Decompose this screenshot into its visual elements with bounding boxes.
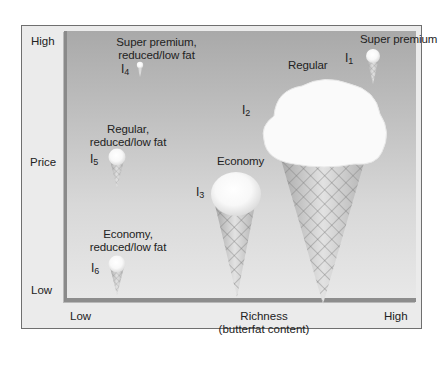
- ice-cream-cone-i6-icon: [105, 255, 129, 297]
- segment-i2-label: Regular: [288, 59, 328, 72]
- segment-i5-label: Regular, reduced/low fat: [78, 123, 178, 149]
- x-axis-title-line1: Richness: [214, 310, 314, 323]
- y-axis-title: Price: [30, 156, 56, 169]
- x-axis-low-label: Low: [70, 310, 91, 323]
- segment-i1-id: I1: [345, 52, 353, 67]
- y-axis-low-label: Low: [31, 284, 52, 297]
- y-axis-high-label: High: [31, 35, 55, 48]
- ice-cream-cone-i4-icon: [135, 61, 145, 81]
- segment-i5-id: I5: [90, 153, 98, 168]
- segment-i4-id: I4: [121, 63, 129, 78]
- segment-i2-id: I2: [242, 104, 250, 119]
- segment-i6-label: Economy, reduced/low fat: [78, 228, 178, 254]
- ice-cream-cone-i5-icon: [105, 148, 129, 190]
- segment-i1-label: Super premium: [360, 33, 437, 46]
- x-axis-high-label: High: [384, 310, 408, 323]
- ice-cream-cone-i2-icon: [254, 76, 399, 306]
- segment-i3-id: I3: [196, 186, 204, 201]
- x-axis-title-line2: (butterfat content): [214, 323, 314, 336]
- segment-i6-id: I6: [91, 262, 99, 277]
- x-axis-title: Richness (butterfat content): [214, 310, 314, 336]
- segment-i4-label: Super premium, reduced/low fat: [104, 36, 209, 62]
